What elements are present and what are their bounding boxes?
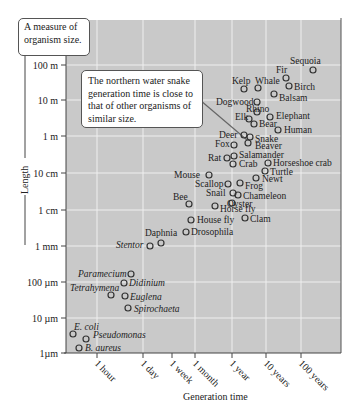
point-label: Crab — [239, 159, 258, 169]
point-label: Euglena — [129, 292, 162, 302]
point-label: Drosophila — [191, 227, 234, 237]
point-label: Bear — [259, 119, 278, 129]
point-label: Elk — [235, 112, 248, 122]
y-tick-label: 100 m — [33, 60, 59, 71]
point-label: Pseudomonas — [92, 330, 146, 340]
point-label: Sequoia — [290, 56, 321, 66]
x-axis-label: Generation time — [183, 391, 248, 402]
x-tick-label: 1 week — [168, 358, 196, 386]
point-label: Whale — [255, 76, 280, 86]
point-label: Bee — [173, 192, 188, 202]
y-axis-callout: A measure of organism size. — [18, 18, 90, 56]
point-label: Paramecium — [77, 269, 127, 279]
point-label: Tetrahymena — [70, 283, 120, 293]
point-label: B. aureus — [85, 343, 121, 353]
y-axis-ticks: 100 m10 m1 m10 cm1 cm1 mm100 µm10 µm1µm — [27, 60, 66, 359]
point-label: Snail — [206, 188, 226, 198]
data-point: Drosophila — [183, 227, 234, 237]
point-label: Stentor — [116, 240, 144, 250]
point-label: Horse fly — [220, 204, 256, 214]
point-label: Birch — [294, 82, 315, 92]
y-tick-label: 10 µm — [32, 313, 58, 324]
data-point: Spirochaeta — [125, 304, 180, 314]
x-tick-label: 100 years — [297, 358, 332, 393]
y-tick-label: 1µm — [39, 348, 58, 359]
point-label: Fir — [276, 65, 288, 75]
point-label: Rat — [208, 153, 222, 163]
x-tick-label: 1 year — [228, 358, 254, 384]
point-label: Fox — [215, 139, 230, 149]
point-label: House fly — [197, 215, 234, 225]
y-tick-label: 1 cm — [38, 205, 58, 216]
x-axis-ticks: 1 hour1 day1 week1 month1 year10 years10… — [93, 353, 332, 393]
point-label: Newt — [262, 174, 283, 184]
y-tick-label: 1 mm — [35, 241, 58, 252]
x-tick-label: 10 years — [262, 358, 294, 390]
point-label: Balsam — [279, 93, 308, 103]
y-axis-label: Length — [19, 166, 30, 194]
point-label: Daphnia — [145, 228, 178, 238]
point-label: Kelp — [232, 76, 251, 86]
data-point: Paramecium — [77, 269, 134, 279]
point-label: Frog — [245, 181, 263, 191]
point-label: Didinium — [128, 278, 165, 288]
point-label: Spirochaeta — [134, 304, 180, 314]
y-tick-label: 1 m — [43, 131, 59, 142]
y-tick-label: 10 m — [38, 95, 59, 106]
x-tick-label: 1 day — [139, 358, 162, 381]
x-tick-label: 1 month — [191, 358, 222, 389]
point-label: Elephant — [276, 111, 310, 121]
point-label: Human — [284, 125, 312, 135]
y-tick-label: 100 µm — [27, 277, 58, 288]
x-tick-label: 1 hour — [93, 358, 120, 385]
data-point: Rhino — [246, 104, 269, 115]
snake-callout: The northern water snake generation time… — [81, 70, 203, 128]
scatter-chart: 100 m10 m1 m10 cm1 cm1 mm100 µm10 µm1µm … — [0, 0, 359, 416]
point-label: Rhino — [246, 104, 269, 114]
point-label: Clam — [250, 214, 271, 224]
y-tick-label: 10 cm — [33, 168, 58, 179]
